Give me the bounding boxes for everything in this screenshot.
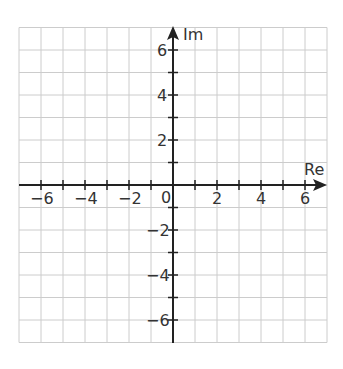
real-axis-label: Re: [304, 160, 324, 179]
origin-label: 0: [161, 188, 171, 207]
x-tick-label: 2: [212, 189, 222, 208]
y-tick-label: 2: [157, 131, 167, 150]
x-tick-label: 4: [256, 189, 266, 208]
x-tick-label: −6: [30, 189, 54, 208]
y-tick-label: 6: [157, 41, 167, 60]
y-tick-label: −4: [146, 266, 170, 285]
imaginary-axis-label: Im: [183, 25, 203, 44]
y-tick-label: −6: [146, 311, 170, 330]
y-tick-label: 4: [157, 86, 167, 105]
x-tick-label: −4: [74, 189, 98, 208]
x-tick-label: −2: [118, 189, 142, 208]
y-tick-label: −2: [146, 221, 170, 240]
argand-diagram: Re Im 0 −6 −4 −2 2 4 6 6 4 2 −2 −4 −6: [0, 0, 343, 369]
axes: [19, 26, 327, 343]
x-tick-label: 6: [300, 189, 310, 208]
